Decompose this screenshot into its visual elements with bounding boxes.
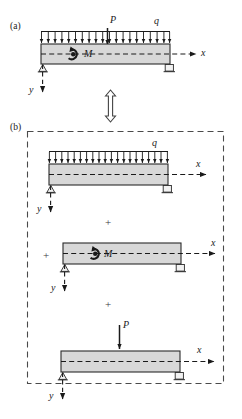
plus-operator-2: + — [105, 299, 111, 310]
plus-operator-1: + — [105, 217, 111, 228]
x-axis-label-b1: x — [196, 159, 200, 169]
y-axis-label-a: y — [29, 85, 33, 95]
figure-root: (a) P q M x y (b) q x y + + M x y + P x … — [0, 0, 242, 419]
roller-support-a — [164, 65, 175, 72]
x-axis-label-b3: x — [197, 345, 201, 355]
case-point-load-group — [58, 325, 214, 399]
moment-label-b2: M — [104, 249, 112, 259]
moment-label-a: M — [84, 49, 92, 59]
x-axis-label-b2: x — [211, 238, 215, 248]
y-axis-label-b3: y — [49, 391, 53, 401]
case-distributed-load-group — [46, 152, 206, 213]
panel-b-label: (b) — [10, 123, 21, 133]
roller-support-b1 — [162, 186, 173, 193]
roller-support-b2 — [175, 265, 186, 272]
equivalence-arrow — [106, 90, 116, 122]
point-load-label-b3: P — [123, 320, 129, 330]
y-axis-label-b1: y — [37, 204, 41, 214]
panel-a-group — [38, 28, 196, 92]
distributed-load-arrows-a — [42, 32, 170, 43]
distributed-load-arrows-b — [49, 152, 167, 163]
x-axis-label-a: x — [201, 48, 205, 58]
y-axis-label-b2: y — [51, 283, 55, 293]
roller-support-b3 — [174, 373, 185, 380]
distributed-load-label-a: q — [154, 16, 159, 26]
distributed-load-label-b1: q — [152, 138, 157, 148]
plus-operator-left-mark: + — [43, 250, 49, 261]
point-load-label-a: P — [110, 15, 116, 25]
panel-a-label: (a) — [10, 22, 21, 32]
case-moment-load-group — [60, 243, 215, 291]
